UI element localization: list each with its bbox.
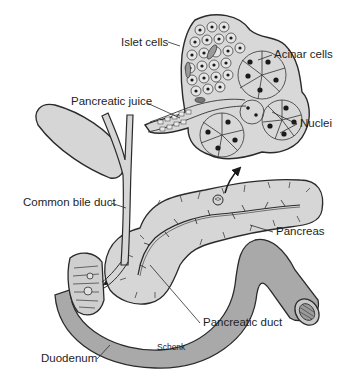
label-islet-cells: Islet cells [121,37,168,49]
duodenum [55,239,324,368]
label-pancreatic-duct: Pancreatic duct [203,317,282,329]
major-papilla [84,287,92,295]
label-common-bile-duct: Common bile duct [23,197,116,209]
label-nuclei: Nuclei [300,118,332,130]
label-pancreatic-juice: Pancreatic juice [71,96,152,108]
gallbladder [36,104,124,178]
label-duodenum: Duodenum [41,353,97,365]
label-acinar-cells: Acinar cells [274,49,333,61]
label-pancreas: Pancreas [276,226,325,238]
magnified-acinus [145,15,309,159]
minor-papilla [87,273,93,279]
label-artist-credit: Schenk [157,343,185,352]
